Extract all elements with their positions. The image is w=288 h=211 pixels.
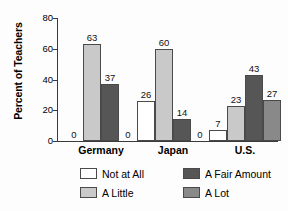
- bar-group-japan: 26 60 14 0: [137, 18, 209, 141]
- y-axis-tick-20: [53, 110, 58, 111]
- legend-label-a-little: A Little: [102, 187, 134, 199]
- legend-label-not-at-all: Not at All: [102, 168, 144, 180]
- y-tick-label-60: 60: [28, 44, 53, 54]
- bar-value-us-a-lot: 27: [258, 89, 286, 99]
- y-axis-tick-40: [53, 80, 58, 81]
- bar-chart: Percent of Teachers 0 20 40 60 80 0 63: [0, 0, 288, 211]
- legend: Not at All A Fair Amount A Little A Lot: [80, 166, 285, 206]
- plot-area: 0 63 37 0 26 60: [57, 18, 278, 141]
- bar-germany-a-little[interactable]: [83, 44, 101, 141]
- legend-swatch-not-at-all: [80, 168, 97, 179]
- legend-label-a-fair-amount: A Fair Amount: [205, 168, 271, 180]
- y-tick-label-80: 80: [28, 13, 53, 23]
- bar-us-a-fair-amount[interactable]: [245, 75, 263, 141]
- y-axis-tick-60: [53, 49, 58, 50]
- bar-japan-a-little[interactable]: [155, 49, 173, 141]
- bar-value-germany-a-little: 63: [78, 33, 106, 43]
- bar-group-germany: 0 63 37 0: [65, 18, 137, 141]
- legend-item-a-little[interactable]: A Little: [80, 185, 134, 200]
- y-axis-tick-0: [53, 141, 58, 142]
- y-axis-tick-80: [53, 18, 58, 19]
- bar-value-us-a-fair-amount: 43: [240, 64, 268, 74]
- y-tick-label-20: 20: [28, 105, 53, 115]
- y-tick-label-0: 0: [28, 136, 53, 146]
- legend-item-a-lot[interactable]: A Lot: [183, 185, 229, 200]
- y-axis-title: Percent of Teachers: [10, 6, 26, 136]
- y-axis-tick-labels: 0 20 40 60 80: [28, 18, 53, 141]
- x-axis-label-us: U.S.: [209, 144, 281, 156]
- bar-us-not-at-all[interactable]: [209, 130, 227, 141]
- x-axis-line: [57, 141, 278, 142]
- bar-value-japan-a-little: 60: [150, 38, 178, 48]
- y-tick-label-40: 40: [28, 75, 53, 85]
- legend-item-a-fair-amount[interactable]: A Fair Amount: [183, 166, 271, 181]
- bar-japan-not-at-all[interactable]: [137, 101, 155, 141]
- bar-value-japan-a-fair-amount: 14: [168, 108, 196, 118]
- bar-us-a-little[interactable]: [227, 106, 245, 141]
- legend-swatch-a-lot: [183, 187, 200, 198]
- x-axis-label-japan: Japan: [137, 144, 209, 156]
- bar-group-us: 7 23 43 27: [209, 18, 281, 141]
- legend-swatch-a-fair-amount: [183, 168, 200, 179]
- legend-swatch-a-little: [80, 187, 97, 198]
- bar-value-germany-a-fair-amount: 37: [96, 73, 124, 83]
- bar-us-a-lot[interactable]: [263, 100, 281, 142]
- legend-item-not-at-all[interactable]: Not at All: [80, 166, 144, 181]
- legend-label-a-lot: A Lot: [205, 187, 229, 199]
- x-axis-label-germany: Germany: [65, 144, 137, 156]
